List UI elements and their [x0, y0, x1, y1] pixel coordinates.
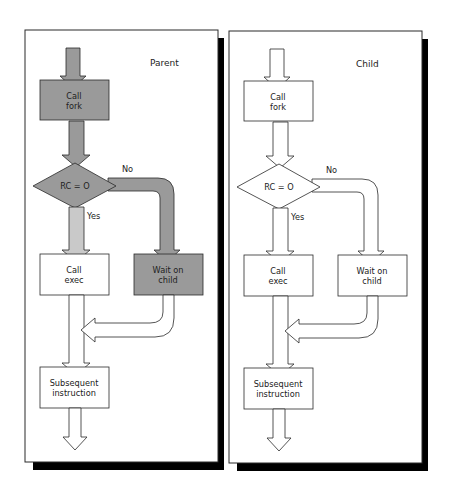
- child-panel-title: Child: [356, 59, 379, 69]
- child-subsequent-label-2: instruction: [256, 389, 300, 399]
- parent-no-label: No: [122, 164, 133, 174]
- parent-fork-label-1: Call: [66, 91, 81, 101]
- parent-subsequent-label-2: instruction: [52, 388, 96, 398]
- child-panel-shadow: [422, 39, 428, 471]
- parent-panel-title: Parent: [150, 58, 179, 68]
- parent-wait-label-1: Wait on: [153, 265, 184, 275]
- child-exec-label-1: Call: [270, 266, 285, 276]
- child-exec-label-2: exec: [268, 276, 287, 286]
- parent-decision-label: RC = O: [60, 181, 90, 191]
- parent-wait-label-2: child: [158, 275, 177, 285]
- child-fork-label-2: fork: [270, 102, 286, 112]
- parent-panel: Parent Call fork No RC = O Yes Call exec…: [25, 30, 224, 470]
- child-no-label: No: [326, 165, 337, 175]
- child-wait-label-2: child: [362, 276, 381, 286]
- fork-flowchart: Parent Call fork No RC = O Yes Call exec…: [0, 0, 450, 494]
- parent-panel-shadow-bottom: [33, 462, 224, 470]
- child-subsequent-label-1: Subsequent: [254, 379, 303, 389]
- child-decision-label: RC = O: [264, 182, 294, 192]
- parent-exec-label-2: exec: [64, 275, 83, 285]
- parent-fork-label-2: fork: [66, 101, 82, 111]
- child-wait-label-1: Wait on: [357, 266, 388, 276]
- child-panel-shadow-bottom: [237, 463, 428, 471]
- child-fork-label-1: Call: [270, 92, 285, 102]
- parent-yes-label: Yes: [86, 211, 100, 221]
- parent-exec-label-1: Call: [66, 265, 81, 275]
- parent-panel-shadow: [218, 38, 224, 470]
- parent-subsequent-label-1: Subsequent: [50, 378, 99, 388]
- child-panel: Child Call fork No RC = O Yes Call exec …: [229, 31, 428, 471]
- child-yes-label: Yes: [290, 212, 304, 222]
